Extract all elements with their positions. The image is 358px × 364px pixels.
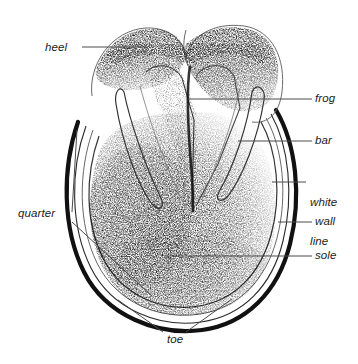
label-wall: wall <box>315 215 335 228</box>
label-heel: heel <box>45 41 67 54</box>
label-sole: sole <box>315 249 337 262</box>
hoof-outline-group <box>67 18 296 331</box>
label-quarter: quarter <box>18 207 55 220</box>
label-frog: frog <box>315 92 335 105</box>
hoof-drawing <box>0 0 358 364</box>
label-bar: bar <box>315 134 332 147</box>
hoof-anatomy-figure: heel frog bar white line wall sole quart… <box>0 0 358 364</box>
label-white-line-row2: line <box>310 235 337 248</box>
label-white-line-row1: white <box>310 196 337 209</box>
label-toe: toe <box>167 333 183 346</box>
